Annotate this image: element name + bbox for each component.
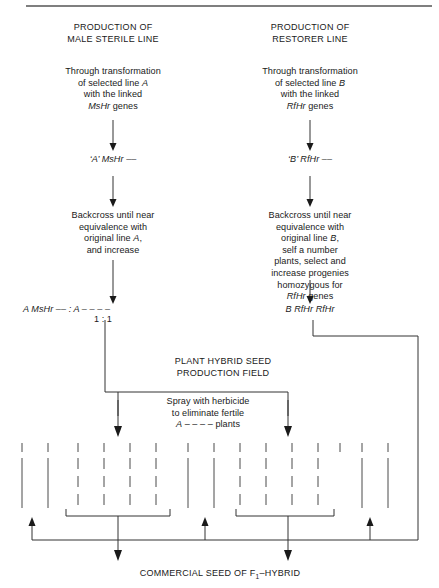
right-step1-line2: of selected line B — [230, 78, 390, 90]
right-step2-genes-word: genes — [306, 291, 334, 301]
right-step2-gene: RfHr — [287, 291, 306, 301]
left-step1-line-label: A — [142, 78, 148, 88]
left-feed-path — [105, 320, 118, 392]
right-step1-genes-word: genes — [306, 101, 334, 111]
dashed-plant-rows — [78, 458, 318, 508]
left-step1-gene: MsHr — [88, 101, 110, 111]
solid-plant-rows — [22, 458, 388, 508]
right-step2-line7: homozygous for — [230, 280, 390, 292]
right-step2-line8: RfHr genes — [230, 291, 390, 303]
spray-line1: Spray with herbicide — [128, 396, 288, 408]
left-segregation-ratio: 1 : 1 — [23, 314, 183, 326]
left-step1-line2: of selected line A — [33, 78, 193, 90]
left-genotype2-gene: A MsHr — [23, 304, 53, 314]
right-genotype1-gene: RfHr — [300, 154, 319, 164]
heading-right-line2: RESTORER LINE — [230, 34, 390, 46]
left-step-backcross: Backcross until near equivalence with or… — [33, 210, 193, 256]
right-genotype1-dashes: –– — [319, 154, 332, 164]
right-step2-line4: self a number — [230, 245, 390, 257]
left-step1-line4: MsHr genes — [33, 101, 193, 113]
left-step1-line1: Through transformation — [33, 66, 193, 78]
right-genotype-homozygous: B RfHr RfHr — [230, 304, 390, 316]
recycle-up-arrowheads — [29, 517, 374, 526]
left-genotype1-gene: MsHr — [102, 154, 124, 164]
left-step2-line3: original line A, — [33, 233, 193, 245]
heading-left: PRODUCTION OF MALE STERILE LINE — [33, 22, 193, 45]
spray-line3: A – – – – plants — [128, 419, 288, 431]
heading-right-line1: PRODUCTION OF — [230, 22, 390, 34]
right-step1-line4: RfHr genes — [230, 101, 390, 113]
plot-tick-row — [22, 443, 388, 452]
footer-text-a: COMMERCIAL SEED OF F — [140, 568, 256, 578]
spray-line-dashes: – – – – plants — [182, 419, 240, 429]
field-label-line1: PLANT HYBRID SEED — [133, 356, 313, 368]
harvest-stem-arrowheads — [114, 550, 292, 561]
right-step2-line3: original line B, — [230, 233, 390, 245]
left-genotype2-dashes: – – – – — [79, 304, 110, 314]
field-label: PLANT HYBRID SEED PRODUCTION FIELD — [133, 356, 313, 379]
heading-right: PRODUCTION OF RESTORER LINE — [230, 22, 390, 45]
heading-left-line2: MALE STERILE LINE — [33, 34, 193, 46]
left-step1-genes-word: genes — [110, 101, 138, 111]
field-label-line2: PRODUCTION FIELD — [133, 368, 313, 380]
left-step2-line1: Backcross until near — [33, 210, 193, 222]
right-step1-line3: with the linked — [230, 89, 390, 101]
left-step1-line3: with the linked — [33, 89, 193, 101]
right-genotype1-line: ‘B’ — [288, 154, 300, 164]
right-step2-line1: Backcross until near — [230, 210, 390, 222]
left-genotype-primary: ‘A’ MsHr –– — [33, 154, 193, 166]
right-genotype-primary: ‘B’ RfHr –– — [230, 154, 390, 166]
left-step2-line3-text: original line — [84, 233, 133, 243]
right-step2-comma: , — [336, 233, 339, 243]
left-step-transformation: Through transformation of selected line … — [33, 66, 193, 112]
spray-instruction: Spray with herbicide to eliminate fertil… — [128, 396, 288, 431]
left-step2-comma: , — [139, 233, 142, 243]
diagram-canvas: PRODUCTION OF MALE STERILE LINE PRODUCTI… — [0, 0, 439, 588]
right-step1-gene: RfHr — [287, 101, 306, 111]
right-step1-line2-text: of selected line — [275, 78, 339, 88]
harvest-stems — [118, 516, 288, 556]
spray-line2: to eliminate fertile — [128, 408, 288, 420]
recycle-bus — [32, 524, 418, 540]
left-step1-line2-text: of selected line — [78, 78, 142, 88]
left-step2-line2: equivalence with — [33, 222, 193, 234]
left-step2-line4: and increase — [33, 245, 193, 257]
right-step2-line6: increase progenies — [230, 268, 390, 280]
footer-text-b: –HYBRID — [259, 568, 300, 578]
right-step2-line2: equivalence with — [230, 222, 390, 234]
left-genotype1-line: ‘A’ — [90, 154, 102, 164]
right-step-transformation: Through transformation of selected line … — [230, 66, 390, 112]
right-step1-line1: Through transformation — [230, 66, 390, 78]
right-step-backcross: Backcross until near equivalence with or… — [230, 210, 390, 303]
footer-commercial-seed: COMMERCIAL SEED OF F1–HYBRID — [80, 568, 360, 582]
right-genotype2-gene: B RfHr RfHr — [285, 304, 334, 314]
left-genotype1-dashes: –– — [124, 154, 137, 164]
right-step1-line-label: B — [339, 78, 345, 88]
right-step2-line3-text: original line — [281, 233, 330, 243]
harvest-brackets — [66, 509, 334, 516]
heading-left-line1: PRODUCTION OF — [33, 22, 193, 34]
right-feed-path — [313, 320, 418, 540]
left-genotype2-sep: –– : — [53, 304, 73, 314]
right-step2-line5: plants, select and — [230, 256, 390, 268]
